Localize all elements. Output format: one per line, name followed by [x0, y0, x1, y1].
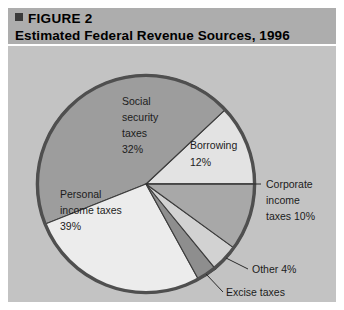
figure-label: FIGURE 2 [28, 11, 93, 26]
label-corporate-income-taxes: Corporate income taxes 10% [266, 178, 315, 222]
social-line-2: security [122, 111, 159, 123]
pie-chart: Social security taxes 32% Borrowing 12% … [8, 46, 336, 302]
figure-body-panel: Social security taxes 32% Borrowing 12% … [8, 46, 336, 302]
leader-line-excise [206, 274, 223, 292]
social-line-4: 32% [122, 143, 143, 155]
borrowing-line-1: Borrowing [190, 139, 237, 151]
figure-header-band: FIGURE 2 Estimated Federal Revenue Sourc… [8, 8, 336, 44]
borrowing-line-2: 12% [190, 156, 211, 168]
figure-container: FIGURE 2 Estimated Federal Revenue Sourc… [8, 8, 336, 302]
square-bullet-icon [15, 13, 23, 21]
social-line-1: Social [122, 95, 151, 107]
label-other: Other 4% [252, 263, 296, 275]
personal-line-3: 39% [60, 220, 81, 232]
corporate-line-3: taxes 10% [266, 210, 315, 222]
corporate-line-1: Corporate [266, 178, 313, 190]
other-line-1: Other 4% [252, 263, 296, 275]
personal-line-1: Personal [60, 188, 101, 200]
personal-line-2: income taxes [60, 204, 122, 216]
figure-title: Estimated Federal Revenue Sources, 1996 [15, 28, 336, 43]
social-line-3: taxes [122, 127, 147, 139]
label-excise-taxes: Excise taxes 3% [226, 286, 285, 302]
leader-line-other [226, 258, 248, 269]
figure-label-line: FIGURE 2 [15, 11, 336, 27]
corporate-line-2: income [266, 194, 300, 206]
excise-line-1: Excise taxes [226, 286, 285, 298]
